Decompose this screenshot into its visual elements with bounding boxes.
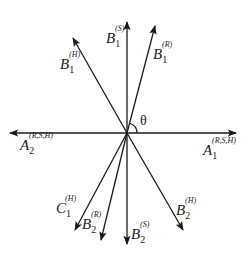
label-c1-h: C1(H) [56, 200, 71, 216]
label-b2-r: B2(R) [82, 216, 96, 232]
vector-diagram [0, 0, 249, 254]
label-b1-r: B1(R) [153, 46, 167, 62]
vector-b1-h [73, 38, 127, 133]
vector-b2-h [127, 133, 183, 230]
vector-b2-r [101, 133, 127, 240]
label-b2-h: B2(H) [176, 202, 190, 218]
angle-arc [130, 124, 137, 134]
label-b1-h: B1(H) [60, 56, 74, 72]
label-a1: A1(R,S,H) [203, 142, 217, 158]
label-b1-s: B1(S) [106, 30, 120, 46]
label-a2: A2(R,S,H) [20, 137, 34, 153]
label-b2-s: B2(S) [131, 226, 145, 242]
angle-theta-label: θ [140, 113, 147, 129]
